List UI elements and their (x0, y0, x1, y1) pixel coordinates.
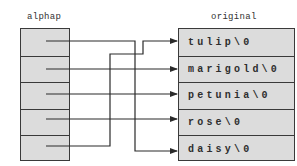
pointer-arrow-0 (46, 41, 177, 151)
pointer-wires (0, 0, 297, 166)
